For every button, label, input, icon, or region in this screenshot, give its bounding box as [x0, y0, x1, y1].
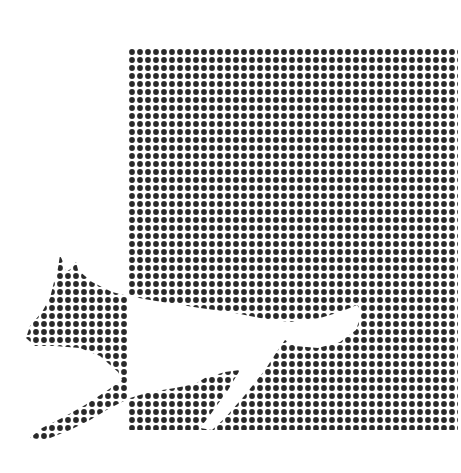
dotted-cat-outside: [0, 0, 461, 473]
halftone-cat-illustration: [0, 0, 461, 473]
